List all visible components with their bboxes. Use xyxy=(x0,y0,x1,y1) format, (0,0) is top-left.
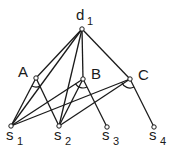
edge-A-s1 xyxy=(11,78,36,126)
edge-d1-C xyxy=(82,29,130,79)
edge-C-s4 xyxy=(130,79,154,127)
node-label-B: B xyxy=(91,65,101,82)
node-subscript-s2: 2 xyxy=(65,135,71,147)
node-label-A: A xyxy=(18,63,28,80)
and-arc-A xyxy=(32,86,40,87)
node-label-C: C xyxy=(138,66,149,83)
node-subscript-d1: 1 xyxy=(87,15,93,27)
edge-d1-B xyxy=(82,29,83,79)
node-label-s1: s xyxy=(6,126,14,143)
node-label-d1: d xyxy=(76,6,84,23)
and-or-graph-diagram: d1ABCs1s2s3s4 xyxy=(0,0,175,154)
node-A xyxy=(34,76,38,80)
edge-d1-A xyxy=(36,29,82,78)
node-B xyxy=(81,77,85,81)
node-label-s3: s xyxy=(102,126,110,143)
edge-B-s3 xyxy=(83,79,107,127)
node-subscript-s4: 4 xyxy=(160,135,166,147)
edge-d1-s2 xyxy=(59,29,82,126)
node-label-s2: s xyxy=(54,126,62,143)
labels-layer: d1ABCs1s2s3s4 xyxy=(6,6,166,147)
node-label-s4: s xyxy=(149,126,157,143)
node-d1 xyxy=(80,27,84,31)
node-subscript-s3: 3 xyxy=(113,135,119,147)
node-subscript-s1: 1 xyxy=(17,135,23,147)
node-C xyxy=(128,77,132,81)
